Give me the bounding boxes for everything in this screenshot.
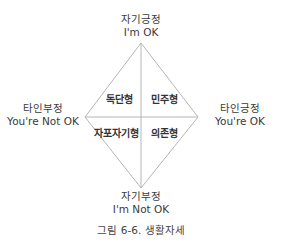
axis-label-top: 자기긍정 I'm OK [121, 13, 161, 39]
quadrant-top-right: 민주형 [151, 91, 178, 106]
axis-top-english: I'm OK [121, 26, 161, 39]
axis-left-korean: 타인부정 [7, 102, 79, 115]
axis-left-english: You're Not OK [7, 115, 79, 128]
figure-caption: 그림 6-6. 생활자세 [97, 222, 184, 237]
quadrant-bottom-left: 자포자기형 [94, 125, 139, 140]
axis-bottom-english: I'm Not OK [113, 203, 169, 216]
quadrant-bottom-right: 의존형 [151, 125, 178, 140]
quadrant-top-left: 독단형 [106, 91, 133, 106]
axis-right-english: You're OK [215, 115, 265, 128]
axis-top-korean: 자기긍정 [121, 13, 161, 26]
axis-bottom-korean: 자기부정 [113, 190, 169, 203]
axis-right-korean: 타인긍정 [215, 102, 265, 115]
axis-label-right: 타인긍정 You're OK [215, 102, 265, 128]
axis-label-bottom: 자기부정 I'm Not OK [113, 190, 169, 216]
axis-label-left: 타인부정 You're Not OK [7, 102, 79, 128]
life-position-diagram: 자기긍정 I'm OK 자기부정 I'm Not OK 타인부정 You're … [0, 0, 282, 245]
